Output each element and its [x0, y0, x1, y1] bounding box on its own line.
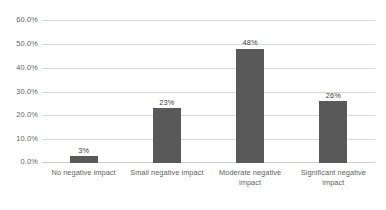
bar-slot-3: 48%: [209, 20, 292, 163]
y-tick-label-60: 60.0%: [0, 16, 38, 24]
x-category-label-3: Moderate negative impact: [212, 168, 288, 188]
bar-slot-1: 3%: [42, 20, 125, 163]
y-tick-label-30: 30.0%: [0, 88, 38, 96]
y-axis: 60.0% 50.0% 40.0% 30.0% 20.0% 10.0% 0.0%: [0, 20, 38, 163]
x-category-label-4: Significant negative impact: [293, 168, 373, 188]
x-category-label-2: Small negative impact: [125, 168, 208, 178]
bar-value-label-2: 23%: [159, 98, 174, 107]
x-category-label-1: No negative impact: [42, 168, 125, 178]
y-tick-label-0: 0.0%: [0, 158, 38, 166]
bar-value-label-3: 48%: [243, 38, 258, 47]
bar-no-negative-impact[interactable]: [70, 156, 98, 163]
y-tick-label-40: 40.0%: [0, 64, 38, 72]
bar-significant-negative-impact[interactable]: [319, 101, 347, 163]
bar-value-label-4: 26%: [326, 91, 341, 100]
bar-slot-4: 26%: [292, 20, 375, 163]
bar-slot-2: 23%: [125, 20, 208, 163]
bar-chart: 60.0% 50.0% 40.0% 30.0% 20.0% 10.0% 0.0%…: [0, 0, 386, 210]
y-tick-label-20: 20.0%: [0, 111, 38, 119]
bars-layer: 3% 23% 48% 26%: [42, 20, 375, 163]
bar-value-label-1: 3%: [78, 146, 89, 155]
x-axis: No negative impact Small negative impact…: [42, 168, 375, 208]
bar-small-negative-impact[interactable]: [153, 108, 181, 163]
y-tick-label-10: 10.0%: [0, 135, 38, 143]
y-tick-label-50: 50.0%: [0, 40, 38, 48]
bar-moderate-negative-impact[interactable]: [236, 49, 264, 163]
